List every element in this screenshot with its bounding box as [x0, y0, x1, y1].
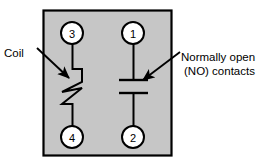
terminal-4-label: 4	[69, 132, 75, 144]
terminal-3-label: 3	[69, 28, 75, 40]
terminal-2: 2	[122, 126, 144, 148]
relay-diagram: 3 1 4 2 Coil Normally open (NO) con	[0, 0, 261, 165]
coil-label: Coil	[4, 47, 24, 59]
terminal-3: 3	[61, 22, 83, 44]
terminal-4: 4	[61, 126, 83, 148]
terminal-1-label: 1	[130, 28, 136, 40]
no-contacts-label-line1: Normally open	[181, 51, 255, 63]
terminal-2-label: 2	[130, 132, 136, 144]
terminal-1: 1	[122, 22, 144, 44]
relay-diagram-canvas: 3 1 4 2 Coil Normally open (NO) con	[0, 0, 261, 165]
no-contacts-label-line2: (NO) contacts	[184, 65, 255, 77]
